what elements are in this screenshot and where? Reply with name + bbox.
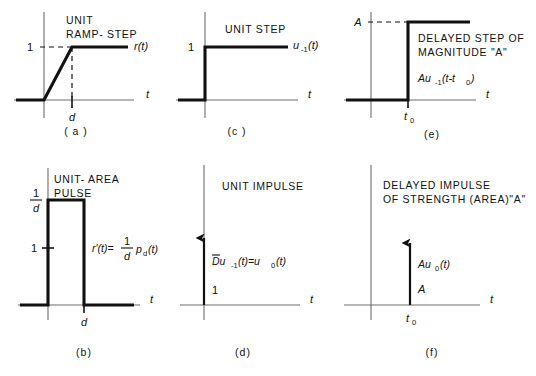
panel-b-axis-label: t [150,293,154,305]
panel-b-pulse-curve [20,200,134,305]
panel-c-step-curve [178,47,288,100]
panel-b-frac-numerator: 1 [33,187,39,199]
panel-e-x-tick-label-sub: 0 [410,116,414,125]
panel-f-x-tick-label-base: t [406,312,410,324]
panel-b-caption: (b) [76,346,92,358]
panel-f-caption: (f) [426,346,439,358]
panel-d-equation: Du -1 (t)=u 0 (t) [212,255,286,270]
panel-f-heading-line2: OF STRENGTH (AREA)"A" [383,193,526,205]
panel-d: UNIT IMPULSE Du -1 (t)=u 0 (t) 1 t (d) [180,165,314,358]
panel-f-equation-label-base: Au [417,258,431,270]
panel-c-function-label-sub: -1 [301,45,308,54]
panel-a-caption: ( a ) [64,125,88,137]
panel-f-equation-label-sub: 0 [435,264,439,273]
panel-e-heading-line2: MAGNITUDE "A" [418,46,507,58]
panel-b-equation: r'(t)= 1 d p d (t) [92,235,158,262]
panel-e-function-label-sub: -1 [435,78,442,87]
panel-b-equation-rhs-sub: d [143,249,147,258]
panel-e-function-label: Au -1 (t-t 0 ) [417,72,475,87]
panel-f-axis-label: t [490,293,494,305]
panel-b-frac-denominator: d [33,202,40,214]
panel-c: UNIT STEP 1 t u -1 (t) (c ) [176,12,319,137]
panel-f-x-tick-label-sub: 0 [412,318,416,327]
panel-e: A DELAYED STEP OF MAGNITUDE "A" Au -1 (t… [344,12,524,140]
panel-b-equation-rhs: p [135,243,142,255]
panel-f: DELAYED IMPULSE OF STRENGTH (AREA)"A" Au… [344,165,526,358]
panel-e-y-tick-label: A [353,16,361,28]
panel-d-caption: (d) [235,346,251,358]
panel-e-caption: (e) [424,128,440,140]
panel-b-heading-line1: UNIT- AREA [54,173,119,185]
panel-c-heading-line1: UNIT STEP [225,23,286,35]
panel-a-y-tick-label: 1 [27,41,33,53]
panel-f-equation-label-arg: (t) [440,258,450,270]
panel-d-equation-suffix: (t) [276,255,286,267]
panel-f-strength-label: A [417,283,425,295]
panel-d-strength-label: 1 [212,284,218,296]
panel-c-function-label: u -1 (t) [293,39,319,54]
panel-d-heading-line1: UNIT IMPULSE [222,180,304,192]
panel-a: UNIT RAMP- STEP 1 d t r(t) ( a ) [14,12,150,137]
panel-e-heading-line1: DELAYED STEP OF [418,32,524,44]
panel-c-axis-label: t [308,88,312,100]
panel-e-axis-label: t [486,88,490,100]
panel-e-function-label-base: Au [417,72,431,84]
panel-d-equation-mid: (t)=u [238,255,260,267]
figure-page: UNIT RAMP- STEP 1 d t r(t) ( a ) UNIT ST… [0,0,536,376]
panel-a-x-tick-label: d [69,111,76,123]
panel-b-equation-frac-denominator: d [124,250,131,262]
panel-d-equation-prefix-sub: -1 [231,261,238,270]
panel-c-caption: (c ) [227,125,246,137]
panel-b: UNIT- AREA PULSE 1 d 1 d t r'(t)= 1 d p … [18,168,158,358]
panel-d-equation-prefix: Du [212,255,226,267]
panel-c-y-tick-label: 1 [188,41,194,53]
panel-b-equation-frac-numerator: 1 [124,235,130,247]
panel-f-equation-label: Au 0 (t) [417,258,450,273]
panel-f-heading-line1: DELAYED IMPULSE [383,179,491,191]
panel-e-x-tick-label: t 0 [404,110,414,125]
panel-a-heading-line2: RAMP- STEP [66,28,137,40]
panel-d-equation-mid-sub: 0 [271,261,275,270]
panel-d-axis-label: t [310,293,314,305]
panel-b-x-tick-label: d [81,316,88,328]
panel-f-x-tick-label: t 0 [406,312,416,327]
panel-a-function-label: r(t) [134,40,148,52]
panel-b-equation-lhs: r'(t)= [92,242,114,254]
panel-a-axis-label: t [146,88,150,100]
panel-b-y-tick-label: 1 [31,242,37,254]
singularity-functions-figure: UNIT RAMP- STEP 1 d t r(t) ( a ) UNIT ST… [0,0,536,376]
panel-a-heading-line1: UNIT [66,14,93,26]
panel-e-x-tick-label-base: t [404,110,408,122]
panel-b-heading-line2: PULSE [54,187,92,199]
panel-c-function-label-arg: (t) [308,39,319,51]
panel-e-function-label-arg: (t-t [442,72,456,84]
panel-e-function-label-arg-sub: 0 [466,78,470,87]
panel-b-equation-rhs-arg: (t) [148,243,158,255]
panel-c-function-label-base: u [293,39,299,51]
panel-b-y-tick-top-fraction: 1 d [30,187,42,214]
